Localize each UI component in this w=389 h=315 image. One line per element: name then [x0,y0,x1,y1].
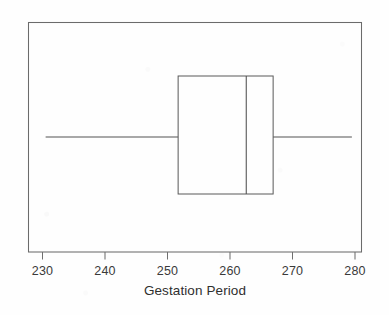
tick-label-240: 240 [94,264,115,278]
x-axis-title: Gestation Period [144,283,246,298]
boxplot-canvas: 230 240 250 260 270 280 Gestation Period [0,0,389,315]
x-axis-ticks [43,252,356,260]
tick-label-280: 280 [344,264,365,278]
boxplot-figure: 230 240 250 260 270 280 Gestation Period [0,0,389,315]
tick-label-230: 230 [32,264,53,278]
x-axis-tick-labels: 230 240 250 260 270 280 [32,264,366,278]
box-iqr [178,76,273,194]
tick-label-250: 250 [157,264,178,278]
tick-label-270: 270 [282,264,303,278]
tick-label-260: 260 [219,264,240,278]
